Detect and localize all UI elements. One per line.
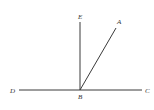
ray-ba [80, 28, 116, 90]
label-e: E [77, 13, 83, 21]
geometry-diagram: D C B E A [0, 0, 154, 110]
label-c: C [145, 87, 150, 95]
label-d: D [9, 87, 15, 95]
label-b: B [78, 93, 83, 101]
label-a: A [116, 18, 122, 26]
